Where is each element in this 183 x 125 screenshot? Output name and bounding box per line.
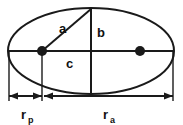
semi-major-axis-line	[42, 9, 91, 51]
periapsis-arrow-right-icon	[33, 93, 42, 100]
label-semi-major-axis: a	[59, 21, 67, 36]
label-periapsis-radius: r	[21, 107, 26, 122]
label-semi-minor-axis: b	[97, 25, 105, 40]
label-apoapsis-radius-subscript: a	[110, 115, 116, 125]
ellipse-figure: a b c r p r a	[0, 0, 183, 125]
label-focal-distance: c	[66, 56, 73, 71]
apoapsis-arrow-right-icon	[164, 93, 173, 100]
ellipse-diagram: a b c r p r a	[0, 0, 183, 125]
label-periapsis-radius-subscript: p	[28, 115, 34, 125]
label-apoapsis-radius: r	[103, 107, 108, 122]
apoapsis-arrow-left-icon	[44, 93, 53, 100]
periapsis-arrow-left-icon	[9, 93, 18, 100]
right-focus-dot	[135, 46, 145, 56]
